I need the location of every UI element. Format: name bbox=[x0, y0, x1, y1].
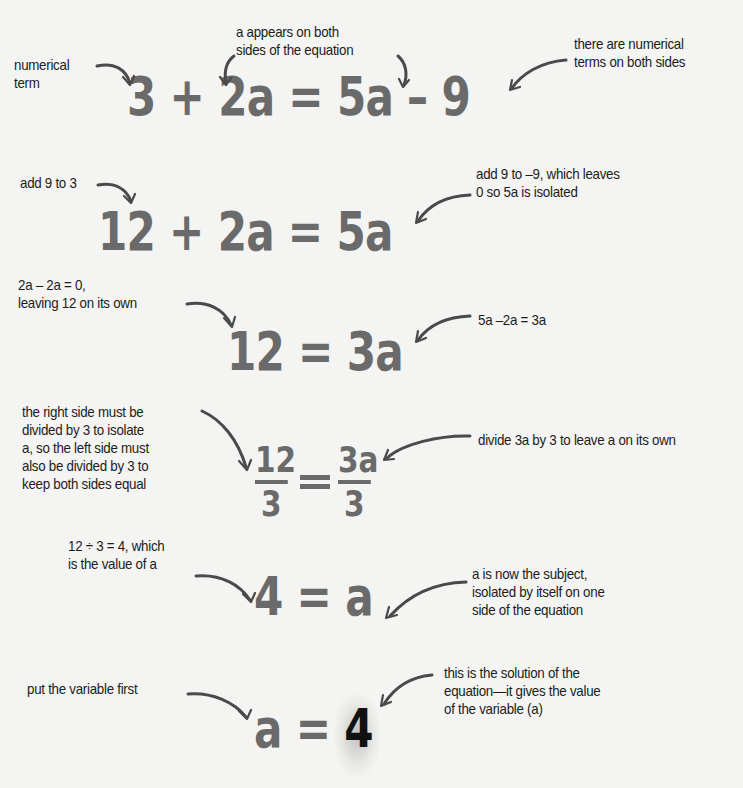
equals-sign: = bbox=[298, 325, 333, 379]
equation-step-6: a=4 bbox=[254, 702, 373, 756]
fraction-left: 12 3 bbox=[255, 442, 288, 522]
annotation-add-9-to-3: add 9 to 3 bbox=[20, 174, 77, 192]
arrow-icon-variable-first bbox=[188, 694, 251, 719]
fraction-right: 3a 3 bbox=[338, 442, 371, 522]
equals-sign bbox=[300, 475, 330, 489]
minus-sign: – bbox=[407, 70, 427, 124]
equation-step-2: 12+2a=5a bbox=[98, 205, 393, 259]
arrow-icon-solution bbox=[381, 675, 432, 706]
arrow-icon-divide-3a bbox=[384, 436, 470, 460]
annotation-a-both-sides: a appears on both sides of the equation bbox=[236, 23, 353, 59]
term-5a: 5a bbox=[337, 70, 393, 124]
term-9: 9 bbox=[441, 70, 470, 124]
equals-sign: = bbox=[288, 70, 323, 124]
arrow-icon-divide-both bbox=[202, 411, 251, 470]
annotation-numerical-both-sides: there are numerical terms on both sides bbox=[574, 35, 685, 71]
annotation-subject: a is now the subject, isolated by itself… bbox=[472, 565, 605, 619]
term-a: a bbox=[345, 570, 373, 624]
equation-step-1: 3+2a=5a–9 bbox=[127, 70, 470, 124]
arrow-icon-value-of-a bbox=[196, 576, 255, 602]
term-12: 12 bbox=[98, 205, 155, 259]
equation-step-3: 12=3a bbox=[227, 325, 403, 379]
numerator-12: 12 bbox=[255, 442, 288, 480]
term-2a: 2a bbox=[218, 205, 274, 259]
term-2a: 2a bbox=[218, 70, 274, 124]
arrow-icon-add-9-to-minus-9 bbox=[416, 195, 470, 223]
annotation-numerical-term: numerical term bbox=[14, 56, 69, 92]
term-3: 3 bbox=[127, 70, 156, 124]
annotation-divide-3a: divide 3a by 3 to leave a on its own bbox=[478, 431, 676, 449]
term-12: 12 bbox=[227, 325, 284, 379]
numerator-3a: 3a bbox=[338, 442, 371, 480]
annotation-value-of-a: 12 ÷ 3 = 4, which is the value of a bbox=[68, 537, 164, 573]
equation-step-5: 4=a bbox=[254, 570, 373, 624]
variable-a: a bbox=[254, 702, 282, 756]
equals-sign: = bbox=[296, 702, 331, 756]
annotation-variable-first: put the variable first bbox=[27, 680, 137, 698]
annotation-leaving-12: 2a – 2a = 0, leaving 12 on its own bbox=[18, 276, 137, 312]
denominator-3: 3 bbox=[338, 484, 371, 522]
plus-sign: + bbox=[170, 70, 205, 124]
term-3a: 3a bbox=[347, 325, 403, 379]
solution-value-4: 4 bbox=[344, 702, 373, 756]
denominator-3: 3 bbox=[255, 484, 288, 522]
annotation-5a-minus-2a: 5a –2a = 3a bbox=[478, 311, 546, 329]
arrow-icon-5a-minus-2a bbox=[416, 316, 470, 342]
equals-sign: = bbox=[288, 205, 323, 259]
arrow-icon-subject bbox=[386, 582, 466, 618]
annotation-add-9-to-minus-9: add 9 to –9, which leaves 0 so 5a is iso… bbox=[476, 165, 620, 201]
term-5a: 5a bbox=[336, 205, 392, 259]
term-4: 4 bbox=[254, 570, 283, 624]
plus-sign: + bbox=[169, 205, 204, 259]
annotation-solution: this is the solution of the equation—it … bbox=[444, 664, 600, 718]
annotation-divide-both-sides: the right side must be divided by 3 to i… bbox=[22, 403, 149, 493]
arrow-icon-numerical-both bbox=[510, 60, 566, 90]
equals-sign: = bbox=[297, 570, 332, 624]
